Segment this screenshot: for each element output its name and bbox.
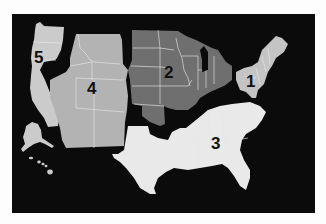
region-4[interactable]: 4 <box>50 34 128 148</box>
region-1-shape <box>236 36 288 98</box>
us-regions-map: 5 4 2 1 3 <box>0 0 326 224</box>
region-5-label: 5 <box>34 48 43 67</box>
region-1-label: 1 <box>246 72 255 91</box>
hawaii-islands <box>29 157 53 175</box>
region-4-label: 4 <box>87 79 97 98</box>
region-3[interactable]: 3 <box>112 102 266 194</box>
region-3-label: 3 <box>211 134 220 153</box>
region-1[interactable]: 1 <box>236 36 288 98</box>
region-2-label: 2 <box>164 63 173 82</box>
region-3-shape <box>112 102 266 194</box>
